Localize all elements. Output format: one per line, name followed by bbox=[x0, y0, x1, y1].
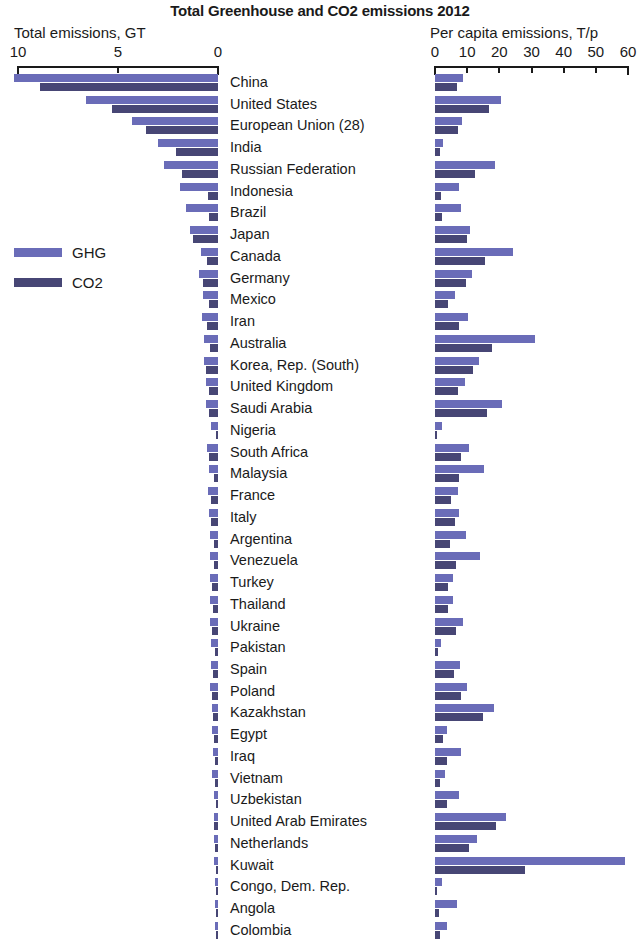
total-co2-bar bbox=[210, 344, 218, 352]
bar-row bbox=[430, 398, 640, 420]
total-co2-bar bbox=[216, 431, 218, 439]
bar-row bbox=[430, 333, 640, 355]
per-capita-co2-bar bbox=[435, 257, 485, 265]
per-capita-co2-bar bbox=[435, 844, 469, 852]
bar-row bbox=[0, 746, 220, 768]
total-ghg-bar bbox=[86, 96, 218, 104]
bar-row bbox=[0, 398, 220, 420]
right-axis-tick-label: 10 bbox=[459, 43, 476, 60]
per-capita-ghg-bar bbox=[435, 444, 469, 452]
bar-row bbox=[0, 72, 220, 94]
bar-row bbox=[0, 333, 220, 355]
total-co2-bar bbox=[214, 822, 218, 830]
bar-row bbox=[430, 702, 640, 724]
per-capita-co2-bar bbox=[435, 692, 461, 700]
total-ghg-bar bbox=[164, 161, 218, 169]
bar-row bbox=[430, 855, 640, 877]
bar-row bbox=[0, 376, 220, 398]
total-ghg-bar bbox=[204, 357, 218, 365]
bar-row bbox=[430, 311, 640, 333]
right-axis-tick-label: 50 bbox=[587, 43, 604, 60]
total-co2-bar bbox=[211, 496, 218, 504]
bar-row bbox=[430, 572, 640, 594]
total-co2-bar bbox=[112, 105, 218, 113]
country-label: France bbox=[230, 485, 430, 507]
bar-row bbox=[0, 311, 220, 333]
country-label: Argentina bbox=[230, 529, 430, 551]
per-capita-ghg-bar bbox=[435, 509, 459, 517]
legend-label-co2: CO2 bbox=[72, 272, 103, 293]
bar-row bbox=[430, 789, 640, 811]
total-ghg-bar bbox=[204, 335, 218, 343]
total-ghg-bar bbox=[212, 704, 218, 712]
country-label: Mexico bbox=[230, 289, 430, 311]
country-label: Poland bbox=[230, 681, 430, 703]
total-co2-bar bbox=[216, 866, 218, 874]
bar-row bbox=[430, 72, 640, 94]
per-capita-ghg-bar bbox=[435, 574, 453, 582]
total-co2-bar bbox=[213, 713, 218, 721]
country-label: Italy bbox=[230, 507, 430, 529]
total-emissions-panel bbox=[0, 72, 220, 902]
bar-row bbox=[430, 681, 640, 703]
per-capita-ghg-bar bbox=[435, 378, 465, 386]
total-ghg-bar bbox=[214, 835, 218, 843]
bar-row bbox=[0, 159, 220, 181]
bar-row bbox=[0, 833, 220, 855]
per-capita-ghg-bar bbox=[435, 748, 461, 756]
per-capita-ghg-bar bbox=[435, 596, 453, 604]
per-capita-co2-bar bbox=[435, 126, 458, 134]
total-ghg-bar bbox=[206, 378, 218, 386]
total-co2-bar bbox=[176, 148, 218, 156]
total-ghg-bar bbox=[214, 791, 218, 799]
country-label: Canada bbox=[230, 246, 430, 268]
bar-row bbox=[0, 420, 220, 442]
total-ghg-bar bbox=[158, 139, 218, 147]
bar-row bbox=[0, 224, 220, 246]
bar-row bbox=[430, 268, 640, 290]
bar-row bbox=[0, 485, 220, 507]
per-capita-ghg-bar bbox=[435, 183, 459, 191]
total-ghg-bar bbox=[201, 248, 218, 256]
bar-row bbox=[0, 529, 220, 551]
country-label: Ukraine bbox=[230, 616, 430, 638]
bar-row bbox=[430, 463, 640, 485]
bar-row bbox=[430, 115, 640, 137]
per-capita-co2-bar bbox=[435, 648, 438, 656]
bar-row bbox=[430, 94, 640, 116]
per-capita-ghg-bar bbox=[435, 835, 477, 843]
total-co2-bar bbox=[216, 800, 218, 808]
per-capita-ghg-bar bbox=[435, 335, 535, 343]
total-ghg-bar bbox=[190, 226, 218, 234]
per-capita-ghg-bar bbox=[435, 726, 447, 734]
country-label: Brazil bbox=[230, 202, 430, 224]
per-capita-co2-bar bbox=[435, 757, 447, 765]
country-label: Kazakhstan bbox=[230, 702, 430, 724]
bar-row bbox=[430, 659, 640, 681]
per-capita-co2-bar bbox=[435, 105, 489, 113]
left-axis-tick-label: 0 bbox=[214, 43, 222, 60]
per-capita-ghg-bar bbox=[435, 791, 459, 799]
bar-row bbox=[0, 811, 220, 833]
bar-row bbox=[430, 442, 640, 464]
right-axis-tick-label: 20 bbox=[491, 43, 508, 60]
total-ghg-bar bbox=[211, 639, 218, 647]
total-co2-bar bbox=[215, 779, 218, 787]
per-capita-ghg-bar bbox=[435, 661, 460, 669]
total-ghg-bar bbox=[210, 531, 218, 539]
per-capita-ghg-bar bbox=[435, 922, 447, 930]
bar-row bbox=[430, 507, 640, 529]
per-capita-co2-bar bbox=[435, 387, 458, 395]
total-ghg-bar bbox=[208, 487, 218, 495]
bar-row bbox=[430, 768, 640, 790]
per-capita-ghg-bar bbox=[435, 878, 442, 886]
country-label: Angola bbox=[230, 898, 430, 920]
per-capita-co2-bar bbox=[435, 431, 437, 439]
bar-row bbox=[0, 789, 220, 811]
total-ghg-bar bbox=[212, 726, 218, 734]
per-capita-co2-bar bbox=[435, 300, 448, 308]
bar-row bbox=[430, 746, 640, 768]
bar-row bbox=[430, 594, 640, 616]
per-capita-co2-bar bbox=[435, 279, 466, 287]
